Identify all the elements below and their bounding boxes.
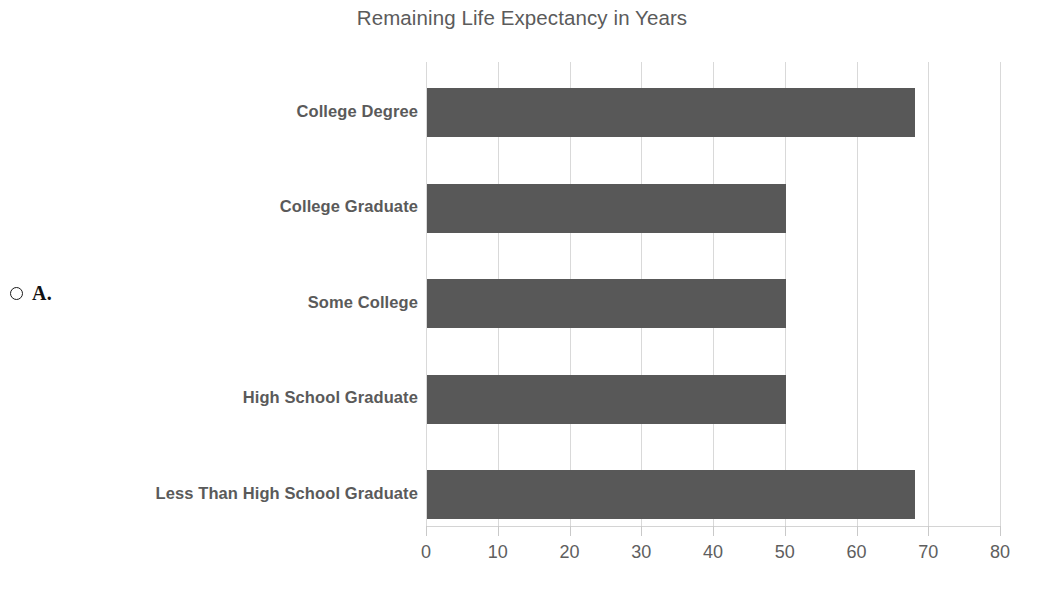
chart-screenshot: A. Remaining Life Expectancy in Years Co… [0,0,1044,600]
tick-label: 60 [827,542,887,563]
tick-mark-50 [785,526,786,536]
category-label: College Degree [18,102,418,121]
tick-label: 80 [970,542,1030,563]
tick-mark-60 [857,526,858,536]
category-label: High School Graduate [18,388,418,407]
tick-mark-0 [426,526,427,536]
category-label: College Graduate [18,197,418,216]
chart-title: Remaining Life Expectancy in Years [0,6,1044,30]
tick-label: 10 [468,542,528,563]
bar [427,375,786,424]
tick-mark-80 [1000,526,1001,536]
plot-area [426,62,1000,526]
tick-mark-10 [498,526,499,536]
tick-mark-40 [713,526,714,536]
category-label: Some College [18,293,418,312]
tick-label: 30 [611,542,671,563]
tick-mark-20 [570,526,571,536]
bar [427,184,786,233]
bar [427,279,786,328]
tick-label: 20 [540,542,600,563]
tick-label: 40 [683,542,743,563]
tick-mark-70 [928,526,929,536]
gridline-80 [1000,62,1001,526]
tick-mark-30 [641,526,642,536]
bar [427,88,915,137]
tick-label: 70 [898,542,958,563]
category-label: Less Than High School Graduate [18,484,418,503]
gridline-70 [928,62,929,526]
tick-label: 0 [396,542,456,563]
tick-label: 50 [755,542,815,563]
bar [427,470,915,519]
